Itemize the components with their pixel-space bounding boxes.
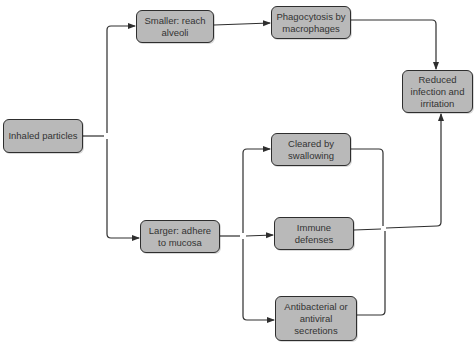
node-larger-adhere-mucosa: Larger: adhere to mucosa bbox=[140, 220, 220, 253]
node-label: Larger: adhere to mucosa bbox=[144, 225, 216, 249]
edge-antibacterial-merge bbox=[357, 231, 385, 315]
edge-smaller-phagocytosis bbox=[214, 23, 270, 25]
node-label: Immune defenses bbox=[278, 222, 350, 246]
node-immune-defenses: Immune defenses bbox=[274, 217, 354, 250]
node-antibacterial-secretions: Antibacterial or antiviral secretions bbox=[275, 296, 357, 341]
edge-to-larger bbox=[107, 139, 139, 238]
node-label: Antibacterial or antiviral secretions bbox=[279, 301, 353, 337]
node-label: Inhaled particles bbox=[8, 130, 77, 142]
edge-to-antibacterial bbox=[243, 239, 274, 320]
connector-lines bbox=[0, 0, 474, 344]
node-inhaled-particles: Inhaled particles bbox=[3, 119, 83, 153]
edge-to-immune bbox=[246, 235, 273, 236]
edge-to-smaller bbox=[107, 26, 135, 133]
node-label: Smaller: reach alveoli bbox=[140, 15, 210, 39]
node-label: Reduced infection and irritation bbox=[406, 74, 469, 110]
node-reduced-infection: Reduced infection and irritation bbox=[402, 70, 473, 113]
node-phagocytosis: Phagocytosis by macrophages bbox=[271, 6, 351, 39]
node-label: Phagocytosis by macrophages bbox=[275, 11, 347, 35]
edge-merge-reduced bbox=[386, 114, 441, 228]
node-cleared-by-swallowing: Cleared by swallowing bbox=[271, 133, 351, 166]
edge-cleared-merge bbox=[351, 149, 383, 226]
edge-phagocytosis-reduced bbox=[351, 20, 436, 69]
node-label: Cleared by swallowing bbox=[275, 138, 347, 162]
node-smaller-reach-alveoli: Smaller: reach alveoli bbox=[136, 10, 214, 43]
edge-to-cleared bbox=[243, 149, 270, 233]
edge-immune-merge bbox=[354, 229, 381, 230]
